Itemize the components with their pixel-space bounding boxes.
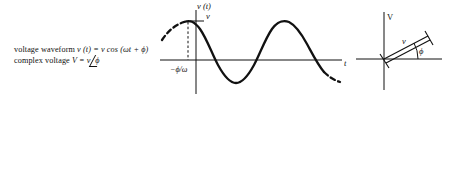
complex-voltage-equation: complex voltage V = νϕ — [14, 55, 148, 67]
phasor-waveform-figure: voltage waveform v (t) = ν cos (ωt + ϕ) … — [0, 0, 451, 190]
complex-voltage-prefix: complex voltage — [14, 56, 72, 65]
voltage-y-axis-label: v (t) — [197, 1, 211, 11]
voltage-peak-label: ν — [206, 11, 210, 21]
voltage-phase-tick-label: −ϕ/ω — [170, 65, 188, 74]
voltage-waveform-expression: v (t) = ν cos (ωt + ϕ) — [77, 45, 148, 54]
voltage-waveform-prefix: voltage waveform — [14, 45, 77, 54]
voltage-angle-value: ϕ — [95, 55, 99, 66]
voltage-phasor-diagram: V ν ϕ — [352, 2, 447, 94]
complex-voltage-expression: V = ν — [72, 56, 91, 65]
voltage-waveform-plot: v (t) ν −ϕ/ω t — [160, 2, 350, 94]
voltage-waveform-curve — [184, 21, 324, 83]
voltage-phasor-angle-label: ϕ — [419, 46, 424, 56]
voltage-phasor-axis-label: V — [387, 12, 394, 22]
voltage-waveform-equation: voltage waveform v (t) = ν cos (ωt + ϕ) — [14, 44, 148, 55]
voltage-wave-leadin — [162, 22, 184, 40]
voltage-phasor-arrowhead — [425, 31, 433, 45]
voltage-legend: voltage waveform v (t) = ν cos (ωt + ϕ) … — [14, 44, 148, 67]
voltage-phase-angle-arc — [414, 43, 418, 59]
voltage-row: voltage waveform v (t) = ν cos (ωt + ϕ) … — [0, 0, 451, 95]
voltage-wave-tail — [324, 72, 340, 82]
voltage-x-axis-label: t — [344, 58, 347, 68]
current-row: current waveform i (t) = ι cos (ωt + θ) … — [0, 95, 451, 190]
voltage-phasor-magnitude-label: ν — [402, 36, 406, 46]
